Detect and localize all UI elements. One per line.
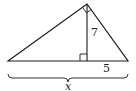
right-angle-mark-foot [80,54,87,61]
base-label: x [65,80,72,91]
altitude-label: 7 [91,26,98,39]
triangle [8,4,128,61]
right-segment-label: 5 [103,62,110,75]
triangle-diagram: 7 5 x [0,0,136,91]
